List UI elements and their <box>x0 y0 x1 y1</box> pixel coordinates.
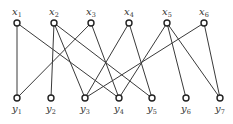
nodes-layer <box>14 20 223 101</box>
label-y1: y1 <box>11 103 22 116</box>
label-y3: y3 <box>79 103 90 116</box>
edge-x5-y6 <box>167 23 186 98</box>
bipartite-graph: x1x2x3x4x5x6y1y2y3y4y5y6y7 <box>0 0 233 124</box>
node-x5 <box>164 20 170 26</box>
node-y6 <box>183 95 189 101</box>
node-y7 <box>217 95 223 101</box>
edges-layer <box>17 23 220 98</box>
node-x2 <box>51 20 57 26</box>
edge-x4-y5 <box>129 23 152 98</box>
label-x2: x2 <box>49 6 59 19</box>
label-x1: x1 <box>12 6 22 19</box>
label-x3: x3 <box>86 6 96 19</box>
edge-x4-y3 <box>85 23 129 98</box>
label-y6: y6 <box>180 103 191 116</box>
label-x4: x4 <box>124 6 134 19</box>
node-x6 <box>201 20 207 26</box>
edge-x3-y4 <box>91 23 119 98</box>
label-y5: y5 <box>146 103 157 116</box>
node-x1 <box>14 20 20 26</box>
label-x6: x6 <box>199 6 209 19</box>
node-y1 <box>14 95 20 101</box>
node-y4 <box>116 95 122 101</box>
node-x3 <box>88 20 94 26</box>
node-y3 <box>82 95 88 101</box>
label-x5: x5 <box>162 6 172 19</box>
node-x4 <box>126 20 132 26</box>
node-y2 <box>48 95 54 101</box>
node-y5 <box>149 95 155 101</box>
label-y7: y7 <box>214 103 225 116</box>
label-y4: y4 <box>113 103 124 116</box>
label-y2: y2 <box>45 103 56 116</box>
edge-x5-y4 <box>119 23 167 98</box>
